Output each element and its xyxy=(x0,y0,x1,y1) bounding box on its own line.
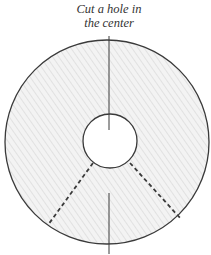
disc-cutting-diagram xyxy=(0,0,211,255)
center-hole xyxy=(83,114,137,168)
